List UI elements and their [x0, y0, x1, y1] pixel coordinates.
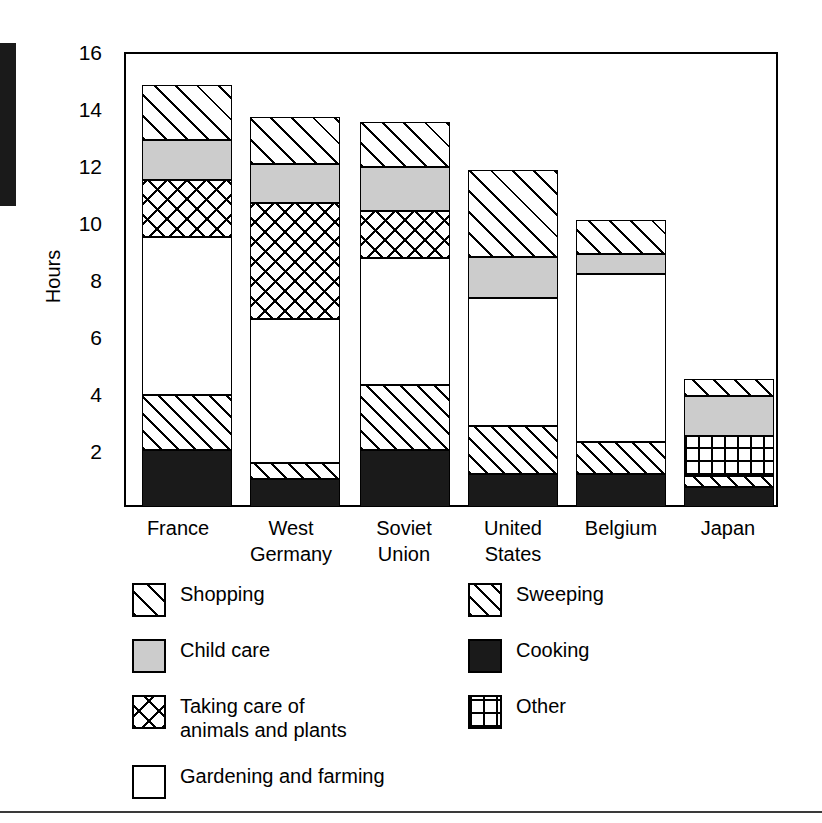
- stacked-bar-chart: Hours 16 14 12 10 8 6 4 2 France West Ge…: [0, 0, 822, 560]
- bar-segment-united-states-gardening-and-farming: [468, 298, 558, 426]
- legend-label-child-care: Child care: [180, 638, 270, 662]
- bar-segment-france-cooking: [142, 450, 232, 507]
- bar-segment-japan-cooking: [684, 487, 774, 507]
- shopping-swatch-icon: [132, 583, 166, 617]
- legend-label-shopping: Shopping: [180, 582, 265, 606]
- bar-segment-france-taking-care-of-animals-and-plants: [142, 180, 232, 237]
- x-tick-label-belgium: Belgium: [565, 515, 677, 541]
- bar-segment-west-germany-sweeping: [250, 463, 340, 479]
- y-tick-label-6: 6: [58, 327, 102, 348]
- bar-belgium[interactable]: [576, 220, 666, 507]
- bar-segment-west-germany-taking-care-of-animals-and-plants: [250, 203, 340, 320]
- bar-segment-soviet-union-shopping: [360, 122, 450, 168]
- chart-legend: Shopping Child care Taking care of anima…: [0, 566, 822, 796]
- legend-item-taking-care[interactable]: Taking care of animals and plants: [132, 694, 347, 742]
- bar-segment-france-gardening-and-farming: [142, 237, 232, 395]
- bar-segment-united-states-cooking: [468, 474, 558, 507]
- y-tick-label-14: 14: [58, 99, 102, 120]
- legend-item-child-care[interactable]: Child care: [132, 638, 270, 673]
- legend-item-other[interactable]: Other: [468, 694, 566, 729]
- bar-segment-france-child-care: [142, 140, 232, 180]
- legend-label-taking-care: Taking care of animals and plants: [180, 694, 347, 742]
- x-label-line1: Japan: [675, 515, 781, 541]
- bar-segment-soviet-union-sweeping: [360, 385, 450, 450]
- legend-item-gardening[interactable]: Gardening and farming: [132, 764, 385, 799]
- x-label-line1: Soviet: [350, 515, 458, 541]
- bar-segment-belgium-shopping: [576, 220, 666, 254]
- bar-japan[interactable]: [684, 379, 774, 507]
- x-label-line1: Belgium: [565, 515, 677, 541]
- y-tick-label-8: 8: [58, 270, 102, 291]
- x-tick-label-soviet-union: Soviet Union: [350, 515, 458, 567]
- bar-segment-west-germany-child-care: [250, 164, 340, 202]
- x-tick-label-west-germany: West Germany: [235, 515, 347, 567]
- bar-segment-united-states-sweeping: [468, 426, 558, 474]
- bar-segment-united-states-child-care: [468, 257, 558, 298]
- bars-layer: [124, 52, 778, 507]
- bar-segment-west-germany-cooking: [250, 479, 340, 507]
- sweeping-swatch-icon: [468, 583, 502, 617]
- cooking-swatch-icon: [468, 639, 502, 673]
- other-swatch-icon: [468, 695, 502, 729]
- page-bottom-rule: [0, 811, 822, 813]
- x-tick-label-france: France: [127, 515, 229, 541]
- x-label-line1: United: [458, 515, 568, 541]
- legend-item-shopping[interactable]: Shopping: [132, 582, 265, 617]
- x-label-line2: States: [458, 541, 568, 567]
- child-care-swatch-icon: [132, 639, 166, 673]
- bar-segment-west-germany-shopping: [250, 117, 340, 164]
- y-tick-label-10: 10: [58, 213, 102, 234]
- y-tick-label-16: 16: [58, 42, 102, 63]
- bar-segment-japan-shopping: [684, 379, 774, 396]
- x-tick-label-japan: Japan: [675, 515, 781, 541]
- taking-care-swatch-icon: [132, 695, 166, 729]
- bar-segment-japan-sweeping: [684, 476, 774, 487]
- y-tick-label-12: 12: [58, 156, 102, 177]
- x-tick-label-united-states: United States: [458, 515, 568, 567]
- bar-france[interactable]: [142, 85, 232, 507]
- bar-segment-west-germany-gardening-and-farming: [250, 319, 340, 463]
- bar-segment-soviet-union-cooking: [360, 450, 450, 507]
- bar-segment-belgium-gardening-and-farming: [576, 274, 666, 442]
- bar-segment-france-sweeping: [142, 395, 232, 450]
- bar-united-states[interactable]: [468, 170, 558, 507]
- bar-segment-belgium-child-care: [576, 254, 666, 274]
- bar-segment-japan-other: [684, 436, 774, 476]
- bar-segment-soviet-union-taking-care-of-animals-and-plants: [360, 211, 450, 258]
- gardening-swatch-icon: [132, 765, 166, 799]
- x-label-line2: Germany: [235, 541, 347, 567]
- bar-segment-soviet-union-gardening-and-farming: [360, 258, 450, 385]
- legend-label-other: Other: [516, 694, 566, 718]
- bar-segment-belgium-sweeping: [576, 442, 666, 475]
- legend-item-sweeping[interactable]: Sweeping: [468, 582, 604, 617]
- legend-label-cooking: Cooking: [516, 638, 589, 662]
- y-tick-label-2: 2: [58, 441, 102, 462]
- legend-item-cooking[interactable]: Cooking: [468, 638, 589, 673]
- x-label-line1: France: [127, 515, 229, 541]
- x-label-line2: Union: [350, 541, 458, 567]
- x-label-line1: West: [235, 515, 347, 541]
- bar-segment-france-shopping: [142, 85, 232, 140]
- bar-west-germany[interactable]: [250, 117, 340, 507]
- bar-segment-japan-child-care: [684, 396, 774, 436]
- legend-label-gardening: Gardening and farming: [180, 764, 385, 788]
- legend-label-sweeping: Sweeping: [516, 582, 604, 606]
- bar-soviet-union[interactable]: [360, 122, 450, 507]
- y-tick-label-4: 4: [58, 384, 102, 405]
- bar-segment-belgium-cooking: [576, 474, 666, 507]
- bar-segment-soviet-union-child-care: [360, 167, 450, 211]
- bar-segment-united-states-shopping: [468, 170, 558, 257]
